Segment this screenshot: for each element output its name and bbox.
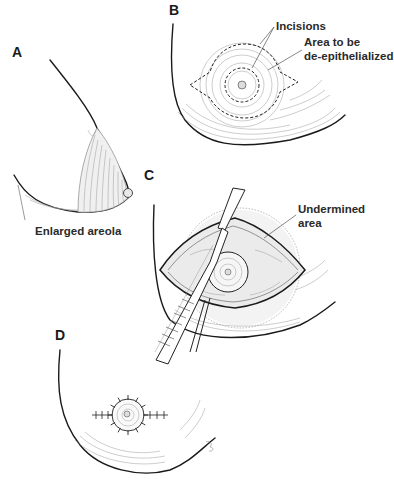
area-label-line2: de-epithelialized — [304, 50, 393, 62]
nipple-icon — [238, 81, 246, 89]
incisions-leader-outer — [260, 27, 274, 44]
panel-a-label: A — [12, 44, 22, 60]
undermined-label-line2: area — [298, 217, 322, 229]
incisions-leader-inner — [252, 27, 274, 68]
nipple-icon — [124, 189, 133, 198]
undermined-label-line1: Undermined — [298, 203, 365, 215]
panel-b-label: B — [169, 2, 179, 18]
surgical-diagram: A Enlarged areola B — [0, 0, 394, 486]
area-leader — [268, 50, 302, 70]
incisions-label: Incisions — [276, 20, 326, 32]
enlarged-areola — [78, 128, 128, 212]
panel-c: C — [144, 167, 365, 364]
nipple-icon — [124, 411, 130, 417]
panel-a: A Enlarged areola — [12, 44, 133, 237]
panel-d-label: D — [55, 327, 65, 343]
panel-c-label: C — [144, 167, 154, 183]
panel-b: B Incisions Area to be de-epithelialized — [169, 2, 393, 145]
nipple-icon — [225, 269, 231, 275]
area-label-line1: Area to be — [304, 36, 360, 48]
panel-a-caption: Enlarged areola — [35, 225, 122, 237]
